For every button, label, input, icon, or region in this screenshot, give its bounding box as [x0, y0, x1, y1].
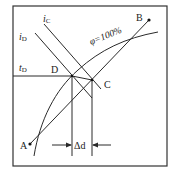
point-d: [71, 75, 74, 78]
label-delta-d: Δd: [74, 140, 85, 151]
label-d: D: [51, 64, 58, 75]
label-a: A: [20, 140, 28, 151]
label-c: C: [104, 79, 111, 90]
label-b: B: [136, 12, 143, 23]
point-b: [147, 18, 150, 21]
point-c: [91, 79, 94, 82]
point-a: [28, 142, 31, 145]
psychrometric-diagram: iC iD tD φ=100% B A D C Δd: [0, 0, 177, 176]
diagram-frame: [13, 6, 167, 166]
